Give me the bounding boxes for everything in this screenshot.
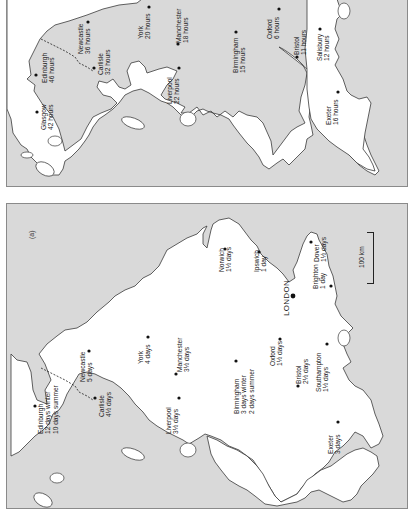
scale-bar-tick-top <box>367 232 374 233</box>
city-label-norwich: Norwich1½ days <box>218 247 233 272</box>
city-label-liverpool: Liverpool22 hours <box>166 77 181 104</box>
city-label-carlisle: Carlisle32 hours <box>97 49 112 75</box>
city-label-bristol: Bristol11 hours <box>293 30 308 55</box>
scale-bar: 100 km <box>367 232 379 288</box>
city-label-dover: Dover1½ days <box>313 237 328 262</box>
city-label-exeter: Exeter16 hours <box>325 99 340 125</box>
city-label-southampton: Southampton1½ days <box>315 353 330 392</box>
map-b-land <box>7 0 408 187</box>
city-label-salisbury: Salisbury12 hours <box>316 34 331 61</box>
city-label-carlisle: Carlisle4½ days <box>98 392 113 417</box>
map-panel-b-hours: Glasgow42 hours Edinburgh46 hours Newcas… <box>6 0 408 187</box>
city-label-birmingham: Birmingham3 days winter2 days summer <box>233 369 255 414</box>
scale-bar-tick-bottom <box>367 283 374 284</box>
city-label-bristol: Bristol2½ days <box>295 359 310 384</box>
city-label-glasgow: Glasgow42 hours <box>40 104 55 130</box>
city-label-manchester: Manchester18 hours <box>175 9 190 43</box>
map-a-land <box>7 204 408 509</box>
scale-bar-line <box>373 232 374 284</box>
map-panel-a-days: (a) Edinburgh12 days winter10 days summe… <box>6 203 408 509</box>
city-label-york: York4 days <box>137 345 152 364</box>
city-label-exeter: Exeter3 days <box>327 435 342 454</box>
city-label-oxford: Oxford1½ days <box>269 341 284 366</box>
scale-bar-label: 100 km <box>358 246 365 268</box>
city-label-brighton: Brighton1 day <box>312 264 327 289</box>
city-label-liverpool: Liverpool3½ days <box>165 407 180 434</box>
city-label-edinburgh: Edinburgh12 days winter10 days summer <box>37 385 59 434</box>
city-label-edinburgh: Edinburgh46 hours <box>41 53 56 83</box>
city-label-london: LONDON <box>283 280 290 316</box>
city-label-oxford: Oxford6 hours <box>266 17 281 39</box>
panel-label-a: (a) <box>28 230 35 239</box>
city-label-ipswich: Ipswich1 day <box>253 250 268 272</box>
city-label-birmingham: Birmingham15 hours <box>232 38 247 73</box>
city-label-manchester: Manchester3½ days <box>176 338 191 372</box>
city-label-newcastle: Newcastle5 days <box>79 352 94 382</box>
city-label-york: York20 hours <box>137 13 152 39</box>
city-label-newcastle: Newcastle36 hours <box>77 24 92 54</box>
